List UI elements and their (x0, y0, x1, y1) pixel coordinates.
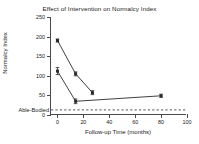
x-axis-tick (161, 114, 162, 118)
y-axis-tick (47, 56, 51, 57)
data-point-marker (160, 94, 163, 97)
x-axis-tick-label: 80 (158, 119, 164, 125)
y-axis-tick-label: 150 (36, 53, 45, 59)
y-axis-tick (47, 37, 51, 38)
y-axis-tick-label: 250 (36, 14, 45, 20)
y-axis-tick (47, 17, 51, 18)
x-axis-tick (187, 114, 188, 118)
y-axis-title: Normalcy Index (2, 18, 8, 88)
x-axis-tick-label: 0 (56, 119, 59, 125)
x-axis-tick (109, 114, 110, 118)
data-point-marker (56, 70, 59, 73)
y-axis-tick (47, 115, 51, 116)
able-bodied-label: Able-Bodied (19, 107, 49, 113)
data-point-marker (74, 100, 77, 103)
x-axis-tick-label: 60 (132, 119, 138, 125)
x-axis-tick (83, 114, 84, 118)
y-axis-tick (47, 76, 51, 77)
x-axis-tick (57, 114, 58, 118)
x-axis-tick-label: 100 (183, 119, 192, 125)
x-axis-tick-label: 40 (106, 119, 112, 125)
x-axis-tick (135, 114, 136, 118)
plot-area: 050100150200250020406080100Able-Bodied (50, 17, 186, 115)
chart-container: Effect of Intervention on Normalcy Index… (0, 0, 199, 144)
chart-title: Effect of Intervention on Normalcy Index (0, 5, 199, 12)
y-axis-tick-label: 200 (36, 34, 45, 40)
data-point-marker (56, 39, 59, 42)
y-axis-tick-label: 0 (42, 112, 45, 118)
x-axis-title: Follow-up Time (months) (50, 129, 186, 135)
y-axis-tick-label: 50 (39, 92, 45, 98)
series-line (57, 41, 92, 93)
series-line (57, 71, 161, 101)
x-axis-tick-label: 20 (80, 119, 86, 125)
y-axis-tick-label: 100 (36, 73, 45, 79)
data-layer (51, 17, 187, 115)
y-axis-tick (47, 95, 51, 96)
data-point-marker (74, 72, 77, 75)
data-point-marker (91, 91, 94, 94)
